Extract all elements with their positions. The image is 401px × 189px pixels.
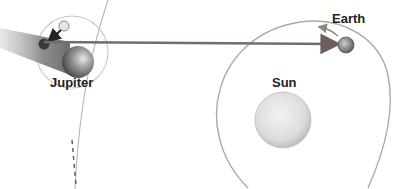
moon-motion-arrow [50, 30, 61, 40]
jupiter-shadow [0, 28, 70, 75]
earth-planet [338, 37, 354, 53]
sun-star [255, 92, 311, 148]
sun-label: Sun [272, 75, 297, 90]
jupiter-label: Jupiter [50, 75, 93, 90]
jupiter-orbit [75, 0, 108, 189]
diagram-canvas [0, 0, 401, 189]
jupiter-earth-diagram: Jupiter Earth Sun [0, 0, 401, 189]
earth-label: Earth [332, 11, 365, 26]
light-path-arrow [44, 42, 336, 44]
jupiter-planet [62, 46, 94, 78]
earth-orbit-direction-arrow [320, 27, 338, 36]
moon-in-shadow-icon [39, 39, 50, 50]
